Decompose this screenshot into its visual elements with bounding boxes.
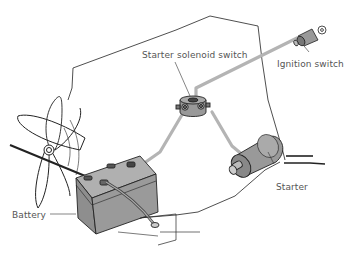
wire-solenoid-to-starter <box>212 112 244 156</box>
wire-solenoid-to-battery <box>140 108 186 166</box>
label-ignition-switch: Ignition switch <box>277 59 344 70</box>
ignition-switch-icon <box>293 26 326 47</box>
starter-motor-icon <box>227 131 283 181</box>
label-battery: Battery <box>12 210 46 221</box>
starting-system-diagram <box>0 0 352 264</box>
wire-ignition-to-solenoid <box>196 38 297 102</box>
label-starter-solenoid-switch: Starter solenoid switch <box>142 50 248 61</box>
starter-solenoid-icon <box>176 96 210 117</box>
label-starter: Starter <box>276 182 308 193</box>
